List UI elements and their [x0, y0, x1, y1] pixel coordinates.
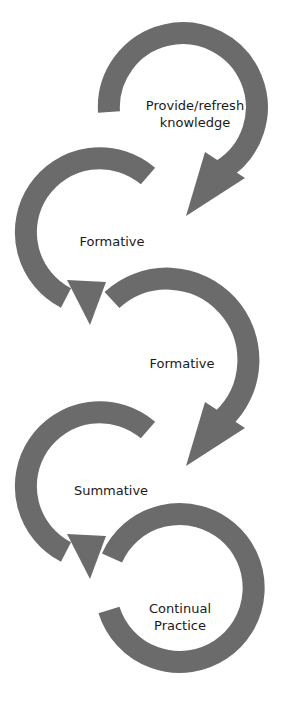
stage-label-line: knowledge	[140, 114, 250, 131]
stage-label-formative-2: Formative	[132, 355, 232, 372]
stage-label-provide-knowledge: Provide/refresh knowledge	[140, 97, 250, 131]
stage-label-summative: Summative	[66, 482, 156, 499]
diagram-canvas: Provide/refresh knowledge Formative Form…	[0, 0, 282, 716]
arc-circle-5	[109, 514, 254, 662]
arrowhead-2	[67, 280, 106, 325]
stage-label-formative-1: Formative	[72, 233, 152, 250]
stage-label-line: Provide/refresh	[140, 97, 250, 114]
arc-arrow-3	[112, 279, 248, 420]
arrowhead-4	[67, 534, 106, 579]
stage-label-continual-practice: Continual Practice	[130, 600, 230, 634]
